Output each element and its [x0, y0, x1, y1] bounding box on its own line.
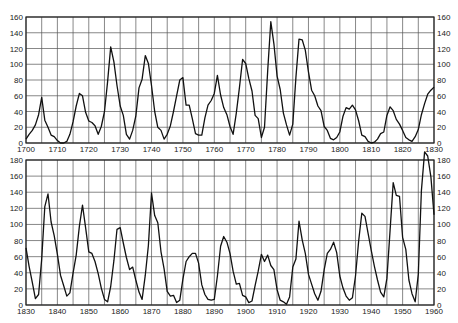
- x-tick-label: 1760: [205, 145, 223, 154]
- y-tick-label-right: 140: [437, 188, 451, 197]
- y-tick-label-right: 80: [437, 76, 446, 85]
- x-tick-label: 1950: [394, 307, 412, 316]
- x-tick-label: 1840: [48, 307, 66, 316]
- y-tick-label-right: 160: [437, 13, 451, 22]
- x-tick-label: 1820: [394, 145, 412, 154]
- y-tick-label-left: 160: [10, 13, 24, 22]
- y-tick-label-right: 60: [437, 92, 446, 101]
- y-tick-label-right: 160: [437, 172, 451, 181]
- y-tick-label-left: 80: [14, 76, 23, 85]
- x-tick-label: 1880: [174, 307, 192, 316]
- x-tick-label: 1710: [48, 145, 66, 154]
- y-tick-label-right: 100: [437, 220, 451, 229]
- y-tick-label-left: 120: [10, 45, 24, 54]
- y-tick-label-right: 20: [437, 123, 446, 132]
- x-tick-label: 1810: [362, 145, 380, 154]
- y-tick-label-left: 60: [14, 253, 23, 262]
- y-tick-label-right: 20: [437, 285, 446, 294]
- x-tick-label: 1940: [362, 307, 380, 316]
- y-tick-label-right: 120: [437, 45, 451, 54]
- x-tick-label: 1780: [268, 145, 286, 154]
- x-tick-label: 1750: [174, 145, 192, 154]
- y-tick-label-right: 100: [437, 60, 451, 69]
- y-tick-label-left: 140: [10, 29, 24, 38]
- sunspot-chart: 1700171017201730174017501760177017801790…: [0, 0, 458, 323]
- y-tick-label-right: 60: [437, 253, 446, 262]
- x-tick-label: 1860: [111, 307, 129, 316]
- y-tick-label-right: 0: [437, 301, 442, 310]
- y-tick-label-left: 180: [10, 156, 24, 165]
- y-tick-label-right: 180: [437, 156, 451, 165]
- x-tick-label: 1850: [80, 307, 98, 316]
- chart-canvas: 1700171017201730174017501760177017801790…: [0, 0, 458, 323]
- y-tick-label-right: 40: [437, 269, 446, 278]
- x-tick-label: 1900: [237, 307, 255, 316]
- x-tick-label: 1800: [331, 145, 349, 154]
- y-tick-label-left: 0: [19, 139, 24, 148]
- y-tick-label-left: 80: [14, 237, 23, 246]
- y-tick-label-left: 20: [14, 285, 23, 294]
- y-tick-label-left: 60: [14, 92, 23, 101]
- y-tick-label-left: 40: [14, 108, 23, 117]
- y-tick-label-left: 40: [14, 269, 23, 278]
- x-tick-label: 1740: [143, 145, 161, 154]
- chart-panel-1: 1700171017201730174017501760177017801790…: [10, 13, 451, 154]
- y-tick-label-left: 0: [19, 301, 24, 310]
- x-tick-label: 1930: [331, 307, 349, 316]
- y-tick-label-right: 140: [437, 29, 451, 38]
- x-tick-label: 1770: [237, 145, 255, 154]
- y-tick-label-right: 0: [437, 139, 442, 148]
- y-tick-label-left: 120: [10, 204, 24, 213]
- x-tick-label: 1720: [80, 145, 98, 154]
- x-tick-label: 1730: [111, 145, 129, 154]
- y-tick-label-left: 140: [10, 188, 24, 197]
- x-tick-label: 1870: [143, 307, 161, 316]
- y-tick-label-left: 100: [10, 60, 24, 69]
- x-tick-label: 1910: [268, 307, 286, 316]
- y-tick-label-right: 120: [437, 204, 451, 213]
- chart-panel-2: 1830184018501860187018801890190019101920…: [10, 152, 451, 316]
- y-tick-label-right: 80: [437, 237, 446, 246]
- y-tick-label-left: 100: [10, 220, 24, 229]
- x-tick-label: 1920: [300, 307, 318, 316]
- x-tick-label: 1890: [205, 307, 223, 316]
- y-tick-label-left: 160: [10, 172, 24, 181]
- x-tick-label: 1790: [300, 145, 318, 154]
- y-tick-label-left: 20: [14, 123, 23, 132]
- y-tick-label-right: 40: [437, 108, 446, 117]
